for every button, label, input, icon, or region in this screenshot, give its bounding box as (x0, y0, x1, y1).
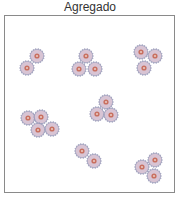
particle (29, 48, 45, 64)
particle (134, 159, 150, 175)
particle (19, 60, 35, 76)
particle (20, 110, 36, 126)
particle (147, 152, 163, 168)
cluster-4 (20, 109, 60, 138)
cluster-6 (74, 143, 102, 169)
particle (30, 122, 46, 138)
particle-canvas (0, 0, 180, 199)
cluster-7 (134, 152, 163, 184)
particle (136, 60, 152, 76)
particle (74, 143, 90, 159)
cluster-1 (19, 48, 45, 76)
particle (146, 168, 162, 184)
particle (103, 107, 119, 123)
particle (86, 153, 102, 169)
cluster-3 (133, 44, 163, 76)
particle (33, 109, 49, 125)
particle (147, 48, 163, 64)
cluster-2 (71, 48, 103, 77)
cluster-5 (89, 94, 119, 123)
particle (133, 44, 149, 60)
particle (44, 121, 60, 137)
particle (87, 61, 103, 77)
